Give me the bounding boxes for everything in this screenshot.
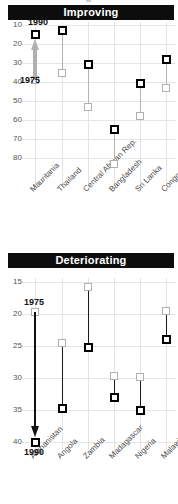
marker-1975-malawi bbox=[162, 307, 170, 315]
y-axis-tick-label: 60 bbox=[2, 116, 22, 124]
gridline bbox=[22, 44, 176, 45]
y-axis-tick-label: 30 bbox=[2, 59, 22, 67]
marker-1990-malawi bbox=[162, 335, 171, 344]
annotation-1975: 1975 bbox=[20, 76, 40, 85]
arrow-head-down bbox=[31, 426, 39, 437]
x-axis-label-zambia: Zambia bbox=[82, 436, 107, 461]
x-axis-label-congo: Congo bbox=[160, 171, 178, 193]
y-axis-tick-label: 80 bbox=[2, 154, 22, 162]
y-axis-tick-label: 15 bbox=[2, 278, 22, 286]
marker-1975-thailand bbox=[58, 69, 66, 77]
chart-panel-deteriorating: Deteriorating 152025303540AfghanistanAng… bbox=[0, 250, 178, 504]
x-axis-label-thailand: Thailand bbox=[56, 166, 83, 193]
y-axis-tick-label: 40 bbox=[2, 438, 22, 446]
gridline bbox=[22, 314, 176, 315]
annotation-1975: 1975 bbox=[24, 298, 44, 307]
gridline bbox=[22, 101, 176, 102]
marker-1990-central-african-rep- bbox=[84, 60, 93, 69]
marker-1975-zambia bbox=[84, 283, 92, 291]
marker-1975-nigeria bbox=[136, 373, 144, 381]
y-axis-tick-label: 50 bbox=[2, 97, 22, 105]
category-gridline-5 bbox=[166, 22, 167, 186]
marker-1975-madagascar bbox=[110, 372, 118, 380]
category-gridline-5 bbox=[166, 278, 167, 450]
marker-1990-nigeria bbox=[136, 406, 145, 415]
arrow-head-up bbox=[31, 39, 39, 50]
arrow-shaft-down bbox=[34, 312, 36, 428]
marker-1990-zambia bbox=[84, 343, 93, 352]
annotation-1990: 1990 bbox=[28, 18, 48, 27]
marker-1990-thailand bbox=[58, 26, 67, 35]
category-gridline-3 bbox=[114, 278, 115, 450]
marker-1990-angola bbox=[58, 404, 67, 413]
marker-1990-bangladesh bbox=[110, 125, 119, 134]
gridline bbox=[22, 120, 176, 121]
gridline bbox=[22, 139, 176, 140]
y-axis-tick-label: 70 bbox=[2, 135, 22, 143]
y-axis-tick-label: 25 bbox=[2, 342, 22, 350]
y-axis-tick-label: 40 bbox=[2, 78, 22, 86]
marker-1975-angola bbox=[58, 339, 66, 347]
gridline bbox=[22, 158, 176, 159]
connector-central-african-rep- bbox=[88, 65, 89, 107]
top-artifact bbox=[86, 0, 91, 2]
connector-bangladesh bbox=[114, 130, 115, 164]
annotation-1990: 1990 bbox=[24, 448, 44, 457]
x-axis-label-angola: Angola bbox=[56, 437, 79, 460]
gridline bbox=[22, 346, 176, 347]
marker-1975-central-african-rep- bbox=[84, 103, 92, 111]
gridline bbox=[22, 63, 176, 64]
marker-1975-sri-lanka bbox=[136, 112, 144, 120]
y-axis-tick-label: 20 bbox=[2, 310, 22, 318]
marker-1990-madagascar bbox=[110, 393, 119, 402]
marker-1990-congo bbox=[162, 55, 171, 64]
y-axis-tick-label: 35 bbox=[2, 406, 22, 414]
gridline bbox=[22, 410, 176, 411]
marker-1990-sri-lanka bbox=[136, 79, 145, 88]
y-axis-tick-label: 10 bbox=[2, 21, 22, 29]
connector-zambia bbox=[88, 287, 89, 347]
gridline bbox=[22, 282, 176, 283]
connector-thailand bbox=[62, 31, 63, 73]
y-axis-tick-label: 30 bbox=[2, 374, 22, 382]
y-axis-tick-label: 20 bbox=[2, 40, 22, 48]
gridline bbox=[22, 378, 176, 379]
x-axis-label-nigeria: Nigeria bbox=[134, 437, 158, 461]
chart-banner-deteriorating: Deteriorating bbox=[8, 253, 174, 268]
chart-panel-improving: Improving 1020304050607080MauritaniaThai… bbox=[0, 0, 178, 248]
marker-1975-bangladesh bbox=[110, 160, 118, 168]
marker-1975-congo bbox=[162, 84, 170, 92]
x-axis-label-malawi: Malawi bbox=[160, 437, 178, 460]
connector-angola bbox=[62, 343, 63, 408]
gridline bbox=[22, 82, 176, 83]
